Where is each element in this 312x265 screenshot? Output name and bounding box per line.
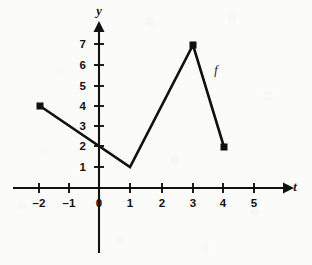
paper-texture — [0, 0, 312, 265]
endpoint-dot-end — [221, 144, 228, 151]
x-tick-label: –1 — [63, 197, 76, 209]
x-tick-label: 5 — [251, 197, 258, 209]
y-axis-label: y — [94, 4, 102, 18]
x-tick-label: 1 — [127, 197, 134, 209]
y-tick-label: 5 — [80, 80, 87, 92]
y-tick-label: 3 — [80, 120, 86, 132]
x-tick-label: 3 — [190, 197, 196, 209]
y-tick-label: 6 — [80, 59, 86, 71]
endpoint-dot-start — [37, 103, 44, 110]
x-axis-label: t — [293, 180, 297, 194]
endpoint-dot-peak — [190, 42, 197, 49]
y-tick-label: 4 — [80, 100, 87, 112]
x-tick-label: 4 — [220, 197, 227, 209]
y-tick-label: 2 — [80, 140, 86, 152]
y-tick-label: 7 — [80, 38, 86, 50]
function-graph: –2 –1 0 1 2 3 4 5 1 2 3 4 5 6 7 t y — [0, 0, 312, 265]
x-tick-label: –2 — [33, 197, 46, 209]
figure-container: –2 –1 0 1 2 3 4 5 1 2 3 4 5 6 7 t y — [0, 0, 312, 265]
y-tick-label: 1 — [80, 161, 87, 173]
x-tick-label-origin: 0 — [96, 197, 102, 209]
x-tick-label: 2 — [159, 197, 165, 209]
